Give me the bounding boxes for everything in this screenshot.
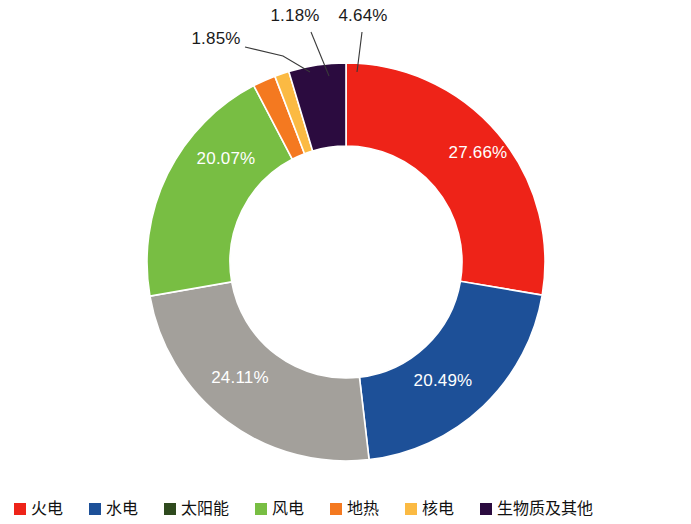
donut-slice-group — [147, 63, 545, 461]
legend-item[interactable]: 太阳能 — [164, 501, 229, 517]
legend-swatch-icon — [14, 503, 26, 515]
donut-slice[interactable] — [359, 281, 542, 459]
legend-item-label: 风电 — [272, 501, 304, 517]
donut-chart-svg — [0, 0, 691, 490]
legend-swatch-icon — [405, 503, 417, 515]
chart-legend: 火电水电太阳能风电地热核电生物质及其他 — [0, 494, 691, 524]
legend-item-label: 太阳能 — [181, 501, 229, 517]
legend-item-label: 生物质及其他 — [497, 501, 593, 517]
legend-item-label: 火电 — [31, 501, 63, 517]
donut-slice[interactable] — [346, 63, 545, 295]
legend-swatch-icon — [330, 503, 342, 515]
donut-chart: 27.66% 20.49% 24.11% 20.07% 1.85% 1.18% … — [0, 0, 691, 490]
legend-item-label: 地热 — [347, 501, 379, 517]
legend-swatch-icon — [89, 503, 101, 515]
legend-item[interactable]: 核电 — [405, 501, 454, 517]
slice-value-label-hedian: 1.18% — [270, 6, 319, 26]
legend-item[interactable]: 风电 — [255, 501, 304, 517]
legend-item[interactable]: 地热 — [330, 501, 379, 517]
legend-item-label: 核电 — [422, 501, 454, 517]
slice-value-label-dire: 1.85% — [191, 29, 240, 49]
legend-swatch-icon — [255, 503, 267, 515]
legend-swatch-icon — [480, 503, 492, 515]
donut-slice[interactable] — [150, 282, 369, 461]
legend-item[interactable]: 水电 — [89, 501, 138, 517]
slice-value-label-shengwuzhi: 4.64% — [338, 6, 387, 26]
legend-item[interactable]: 生物质及其他 — [480, 501, 593, 517]
legend-item[interactable]: 火电 — [14, 501, 63, 517]
legend-item-label: 水电 — [106, 501, 138, 517]
legend-swatch-icon — [164, 503, 176, 515]
